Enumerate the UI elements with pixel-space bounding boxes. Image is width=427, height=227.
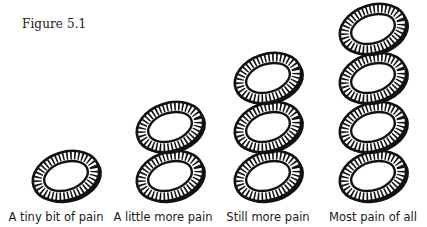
- washer-stack-3: [228, 44, 310, 212]
- column-label-3: Still more pain: [226, 210, 309, 224]
- washer-stack-1: [26, 142, 108, 212]
- washer-stacks-diagram: [0, 0, 427, 227]
- washer-icon: [26, 142, 108, 212]
- washer-stack-4: [333, 0, 415, 212]
- column-label-1: A tiny bit of pain: [8, 210, 103, 224]
- washer-icon: [228, 44, 310, 114]
- washer-stack-2: [130, 93, 212, 212]
- washer-icon: [333, 0, 415, 65]
- column-label-2: A little more pain: [113, 210, 212, 224]
- column-label-4: Most pain of all: [329, 210, 417, 224]
- washer-icon: [130, 93, 212, 163]
